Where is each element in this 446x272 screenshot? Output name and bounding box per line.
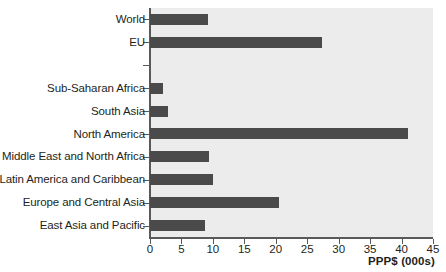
bar-row: World bbox=[0, 8, 446, 31]
bar-rows: WorldEUSub-Saharan AfricaSouth AsiaNorth… bbox=[0, 8, 446, 237]
bar-row-label: North America bbox=[73, 123, 145, 146]
bar-row-label: Middle East and North Africa bbox=[2, 145, 145, 168]
bar bbox=[150, 14, 208, 25]
bar-row-label: EU bbox=[129, 31, 145, 54]
bar-row-label: World bbox=[116, 8, 145, 31]
bar-row: North America bbox=[0, 123, 446, 146]
bar bbox=[150, 37, 322, 48]
y-axis-tick bbox=[143, 65, 150, 66]
x-axis-tick-label: 45 bbox=[413, 243, 446, 255]
bar-row: Sub-Saharan Africa bbox=[0, 77, 446, 100]
bar bbox=[150, 174, 213, 185]
bar-row-label: Latin America and Caribbean bbox=[0, 168, 145, 191]
bar-row-label: South Asia bbox=[91, 100, 145, 123]
bar-row-label: Europe and Central Asia bbox=[23, 191, 145, 214]
bar bbox=[150, 106, 168, 117]
bar bbox=[150, 220, 205, 231]
bar-row: East Asia and Pacific bbox=[0, 214, 446, 237]
bar bbox=[150, 83, 163, 94]
bar bbox=[150, 151, 209, 162]
bar-row: Europe and Central Asia bbox=[0, 191, 446, 214]
bar-row bbox=[0, 54, 446, 77]
bar bbox=[150, 197, 279, 208]
bar bbox=[150, 128, 408, 139]
bar-row: Latin America and Caribbean bbox=[0, 168, 446, 191]
bar-row: Middle East and North Africa bbox=[0, 145, 446, 168]
bar-row: EU bbox=[0, 31, 446, 54]
bar-row-label: Sub-Saharan Africa bbox=[47, 77, 145, 100]
bar-chart: WorldEUSub-Saharan AfricaSouth AsiaNorth… bbox=[0, 0, 446, 272]
bar-row: South Asia bbox=[0, 100, 446, 123]
bar-row-label: East Asia and Pacific bbox=[40, 214, 145, 237]
x-axis-title: PPP$ (000s) bbox=[368, 255, 435, 267]
